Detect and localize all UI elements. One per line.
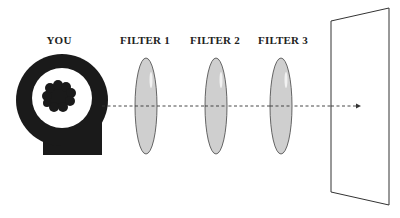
diagram-canvas: [0, 0, 400, 218]
filter-3-label: FILTER 3: [258, 34, 308, 46]
you-label: YOU: [46, 34, 71, 46]
filter-1-lens: [135, 58, 157, 154]
filter-3-lens: [270, 58, 292, 154]
filter-2-label: FILTER 2: [190, 34, 240, 46]
filters-diagram: YOU FILTER 1 FILTER 2 FILTER 3: [0, 0, 400, 218]
filter-1-label: FILTER 1: [120, 34, 170, 46]
filter-2-lens: [205, 58, 227, 154]
